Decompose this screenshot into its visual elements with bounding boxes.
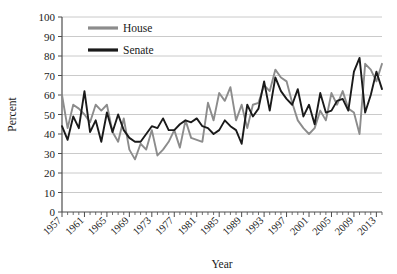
x-tick-label: 1981 <box>176 215 199 238</box>
y-tick-label: 60 <box>44 89 56 101</box>
x-tick-label: 2005 <box>310 215 333 238</box>
y-tick-label: 10 <box>44 187 56 199</box>
x-axis-title: Year <box>211 258 232 270</box>
y-tick-label: 50 <box>44 109 56 121</box>
y-axis-title: Percent <box>6 96 18 131</box>
legend-label-house: House <box>123 22 152 34</box>
series-line-senate <box>62 58 382 144</box>
x-tick-label: 1961 <box>63 215 86 238</box>
x-tick-label: 1997 <box>265 215 288 238</box>
y-tick-label: 100 <box>39 11 56 23</box>
legend: House Senate <box>88 22 154 56</box>
y-tick-label: 70 <box>44 70 56 82</box>
x-tick-label: 1969 <box>108 215 131 238</box>
x-tick-label: 2013 <box>355 215 378 238</box>
x-tick-label: 1989 <box>220 215 243 238</box>
y-axis-tick-labels-group: 0102030405060708090100 <box>39 11 56 218</box>
x-tick-label: 1957 <box>41 215 64 238</box>
y-tick-label: 20 <box>44 167 56 179</box>
y-tick-label: 30 <box>44 148 56 160</box>
y-tick-label: 40 <box>44 128 56 140</box>
x-tick-label: 1973 <box>131 215 154 238</box>
y-tick-label: 90 <box>44 31 56 43</box>
chart-container: 0102030405060708090100 19571961196519691… <box>0 0 397 274</box>
x-tick-label: 1985 <box>198 215 221 238</box>
x-tick-label: 2001 <box>288 215 311 238</box>
series-line-house <box>62 64 382 160</box>
x-tick-label: 1993 <box>243 215 266 238</box>
x-tick-label: 1977 <box>153 215 176 238</box>
x-axis-tick-labels-group: 1957196119651969197319771981198519891993… <box>41 215 378 238</box>
x-tick-label: 2009 <box>333 215 356 238</box>
party-unity-line-chart: 0102030405060708090100 19571961196519691… <box>0 0 397 274</box>
x-axis-tick-marks-group <box>62 212 382 217</box>
legend-label-senate: Senate <box>123 44 154 56</box>
x-tick-label: 1965 <box>86 215 109 238</box>
y-tick-label: 80 <box>44 50 56 62</box>
